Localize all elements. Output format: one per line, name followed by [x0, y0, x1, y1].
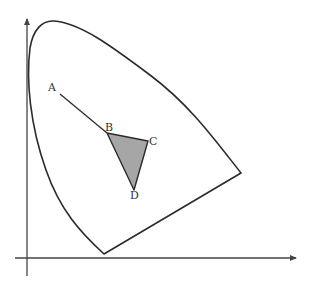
- label-a: A: [47, 81, 57, 94]
- segment-a-b: [60, 94, 107, 133]
- label-d: D: [130, 189, 139, 202]
- label-b: B: [105, 121, 113, 134]
- label-c: C: [149, 135, 157, 148]
- gamut-triangle-bcd: [107, 133, 148, 190]
- diagram-canvas: A B C D: [0, 0, 309, 285]
- spectral-locus-curve: [29, 21, 241, 254]
